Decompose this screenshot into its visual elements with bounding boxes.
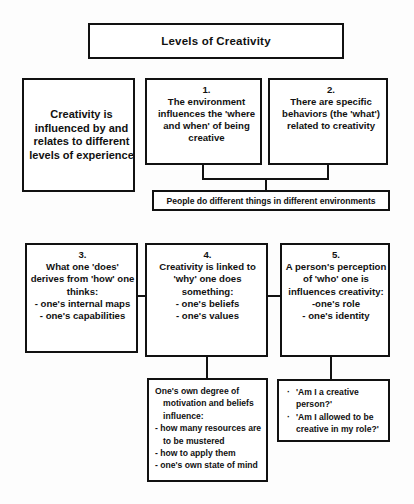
level-5-heading: A person's perception of 'who' one is in… [282,261,390,298]
connector-level3-level4 [138,295,145,297]
level-5-detail-item-1a: 'Am I a creative [296,386,394,398]
level-3-box: 3. What one 'does' derives from 'how' on… [25,243,138,353]
level-1-number: 1. [147,80,266,96]
level-5-box: 5. A person's perception of 'who' one is… [280,243,390,357]
level-5-detail-item-1b: person?' [296,398,394,410]
level-5-detail-item-2b: creative in my role?' [296,423,394,435]
level-4-heading: Creativity is linked to 'why' one does s… [147,261,268,298]
connector-level1-down [202,165,204,179]
diagram-canvas: Levels of Creativity Creativity is influ… [0,0,414,504]
environment-note-text: People do different things in different … [154,196,388,206]
level-5-detail-item-2a: 'Am I allowed to be [296,411,394,423]
level-4-box: 4. Creativity is linked to 'why' one doe… [145,243,268,357]
level-4-detail-lead: One's own degree of [149,380,277,397]
level-3-heading: What one 'does' derives from 'how' one t… [27,261,138,298]
level-4-detail-lead3: influence: [149,410,285,422]
level-5-item-1: - one's identity [282,310,390,322]
diagram-title-box: Levels of Creativity [88,23,344,59]
level-5-detail-box: · 'Am I a creative person?' · 'Am I allo… [277,379,390,442]
level-4-item-0: - one's beliefs [147,298,268,310]
level-5-detail-bullet-1: · 'Am I a creative person?' [279,381,398,411]
level-4-detail-item-3: - one's own state of mind [149,459,277,471]
level-1-box: 1. The environment influences the 'where… [145,78,262,165]
level-3-number: 3. [27,245,138,261]
connector-level4-level5 [268,295,280,297]
level-4-detail-item-2: - how to apply them [149,447,277,459]
level-5-item-0: -one's role [282,298,390,310]
level-4-detail-item-1b: to be mustered [149,435,285,447]
page-title: Levels of Creativity [90,35,342,47]
connector-level4-to-detail [206,357,208,378]
level-4-number: 4. [147,245,268,261]
level-2-text: There are specific behaviors (the 'what'… [270,96,392,132]
connector-level5-to-detail [330,357,332,379]
level-4-item-1: - one's values [147,310,268,322]
level-5-detail-bullet-2: · 'Am I allowed to be creative in my rol… [279,411,398,436]
intro-statement-box: Creativity is influenced by and relates … [22,78,135,192]
bullet-icon: · [285,411,292,423]
level-3-item-1: - one's capabilities [27,310,138,322]
level-4-detail-box: One's own degree of motivation and belie… [147,378,268,482]
level-4-detail-item-1: - how many resources are [149,422,277,434]
bullet-icon: · [285,386,292,398]
level-1-text: The environment influences the 'where an… [147,96,266,144]
level-5-number: 5. [282,245,390,261]
level-4-detail-lead2: motivation and beliefs [149,397,285,409]
level-2-number: 2. [270,80,392,96]
level-2-box: 2. There are specific behaviors (the 'wh… [268,78,388,165]
environment-note-box: People do different things in different … [152,190,390,211]
intro-statement-text: Creativity is influenced by and relates … [24,108,139,162]
connector-level2-down [327,165,329,179]
level-3-item-0: - one's internal maps [27,298,138,310]
